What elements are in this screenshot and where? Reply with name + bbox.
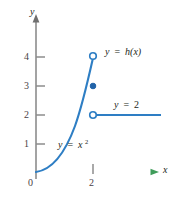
y-tick-label-3: 3 xyxy=(24,81,29,91)
graph-canvas xyxy=(0,0,173,197)
open-circle-marker-2-2 xyxy=(90,112,97,119)
y-tick-label-2: 2 xyxy=(24,110,29,120)
y-tick-label-4: 4 xyxy=(24,52,29,62)
x-axis-arrowhead xyxy=(151,169,160,176)
annotation-curve-exponent: 2 xyxy=(85,138,88,145)
annotation-curve-y: y xyxy=(58,139,62,150)
x-axis-label: x xyxy=(163,165,167,175)
annotation-curve-expr: x xyxy=(78,139,82,150)
y-axis-label: y xyxy=(30,7,34,17)
x-tick-label-2: 2 xyxy=(89,178,94,188)
annotation-h-of-x: y = h(x) xyxy=(105,47,144,57)
annotation-h-expr: h(x) xyxy=(125,46,141,57)
function-graph-figure: y x 4 3 2 1 0 2 y = h(x) y = 2 y = x2 xyxy=(0,0,173,197)
annotation-h-y: y xyxy=(105,46,109,57)
annotation-const-value: 2 xyxy=(134,99,139,110)
x-tick-label-0: 0 xyxy=(28,178,33,188)
annotation-y-equals-x-squared: y = x2 xyxy=(58,140,88,150)
open-circle-marker-2-4 xyxy=(90,53,97,60)
annotation-h-eq: = xyxy=(114,46,120,57)
y-tick-label-1: 1 xyxy=(24,139,29,149)
annotation-y-equals-2: y = 2 xyxy=(114,100,142,110)
filled-dot-marker-2-3 xyxy=(90,83,96,89)
annotation-curve-eq: = xyxy=(67,139,73,150)
annotation-const-y: y xyxy=(114,99,118,110)
annotation-const-eq: = xyxy=(123,99,129,110)
